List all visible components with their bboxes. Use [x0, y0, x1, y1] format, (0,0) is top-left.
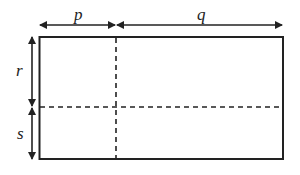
- label-s: s: [17, 124, 24, 143]
- label-p: p: [73, 5, 83, 24]
- diagram-canvas: p q r s: [0, 0, 300, 175]
- label-r: r: [16, 61, 23, 80]
- outer-rectangle: [40, 37, 284, 159]
- label-q: q: [197, 5, 206, 24]
